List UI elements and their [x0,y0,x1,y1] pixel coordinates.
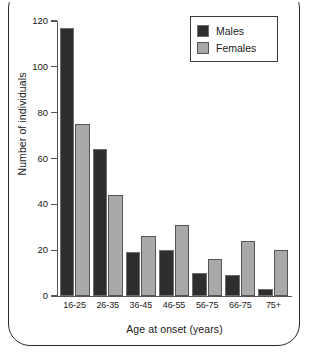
bar-females-26-35 [108,195,123,296]
bar-males-16-25 [60,28,75,296]
bar-males-66-75 [225,275,240,296]
bar-males-36-45 [126,252,141,296]
legend-item-males: Males [197,22,271,39]
bar-males-46-55 [159,250,174,296]
bar-males-56-75 [192,273,207,296]
bar-females-16-25 [75,124,90,296]
bar-males-26-35 [93,149,108,296]
legend-label-males: Males [216,25,244,37]
bar-females-56-75 [208,259,223,296]
legend-label-females: Females [216,42,256,54]
bar-females-66-75 [241,241,256,296]
bar-males-75+ [258,289,273,296]
legend-swatch-males-icon [197,25,209,37]
bar-females-36-45 [141,236,156,296]
bar-females-46-55 [175,225,190,296]
bar-chart: Number of individuals 020406080100120 16… [0,0,310,357]
legend-swatch-females-icon [197,42,209,54]
chart-legend: Males Females [190,16,278,62]
legend-item-females: Females [197,39,271,56]
bar-females-75+ [274,250,289,296]
